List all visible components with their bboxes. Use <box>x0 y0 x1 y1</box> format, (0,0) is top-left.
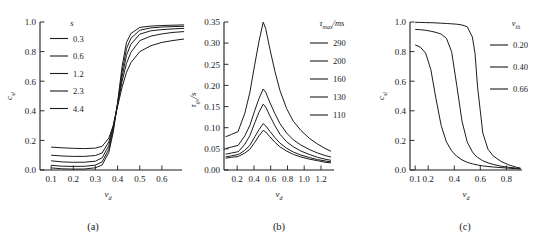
y-tick-labels: 0.0 0.2 0.4 0.6 0.8 1.0 <box>25 17 37 175</box>
y-axis-label: csi <box>376 92 388 100</box>
curve-s-2.3 <box>51 26 184 166</box>
y-tick-labels: 0.0 0.2 0.4 0.6 0.8 1.0 <box>395 17 407 175</box>
curve-taumax-110 <box>226 130 331 163</box>
legend-title: vth <box>512 18 520 30</box>
x-tick-label: 0.8 <box>282 174 294 184</box>
legend-title-sub: max <box>323 24 333 30</box>
panel-c-curves <box>415 22 520 169</box>
curve-vth-0.20 <box>415 45 520 169</box>
y-tick-label: 1.0 <box>25 17 37 27</box>
legend-label: 2.3 <box>73 86 84 96</box>
panel-c-legend: vth 0.20 0.40 0.66 <box>490 18 528 94</box>
legend-entry: 130 <box>310 92 346 102</box>
curve-s-4.4 <box>51 25 184 169</box>
legend-entry: 0.66 <box>490 84 528 94</box>
x-tick-label: 0.6 <box>475 174 487 184</box>
panel-a-caption: (a) <box>0 221 186 232</box>
y-tick-label: 0.2 <box>25 136 36 146</box>
panel-c: 0.0 0.2 0.4 0.6 0.8 1.0 0.1 0.2 0.4 0.6 … <box>372 0 558 236</box>
x-axis-label: vd <box>105 189 113 201</box>
x-tick-label: 0.3 <box>90 174 102 184</box>
x-tick-label: 0.2 <box>68 174 79 184</box>
legend-title: s <box>70 18 74 28</box>
y-tick-label: 0.05 <box>204 144 220 154</box>
x-tick-label: 0.6 <box>156 174 168 184</box>
panel-b-legend: τmax/ms 290 200 160 130 <box>310 18 346 120</box>
legend-label: 0.6 <box>73 51 84 61</box>
y-tick-label: 0.8 <box>395 47 407 57</box>
panel-b: 0.00 0.05 0.10 0.15 0.20 0.25 0.30 0.35 … <box>186 0 372 236</box>
panel-a-curves <box>51 25 184 169</box>
legend-entry: 110 <box>310 110 345 120</box>
y-tick-label: 0.15 <box>204 102 220 112</box>
legend-label: 0.20 <box>513 40 528 50</box>
x-tick-label: 0.5 <box>134 174 146 184</box>
y-ticks <box>40 22 45 170</box>
legend-title: τmax/ms <box>320 18 346 30</box>
y-axis-label: τgv/s <box>188 92 200 107</box>
panel-b-plot: 0.00 0.05 0.10 0.15 0.20 0.25 0.30 0.35 … <box>186 0 372 212</box>
legend-entry: 290 <box>310 38 346 48</box>
legend-label: 0.66 <box>513 84 528 94</box>
y-axis-label: csi <box>4 92 16 100</box>
svg-text:csi: csi <box>4 92 16 100</box>
y-axis-label-tail: /s <box>188 92 198 100</box>
legend-entry: 2.3 <box>50 86 84 96</box>
legend-label: 200 <box>333 56 346 66</box>
legend-title-tail: /ms <box>332 18 346 28</box>
y-tick-label: 0.8 <box>25 47 37 57</box>
y-tick-label: 0.0 <box>395 165 407 175</box>
curve-s-1.2 <box>51 28 184 162</box>
panel-c-axes <box>410 22 522 170</box>
x-tick-label: 0.4 <box>112 174 124 184</box>
legend-label: 110 <box>333 110 345 120</box>
x-tick-label: 0.8 <box>501 174 513 184</box>
legend-entry: 0.6 <box>50 51 84 61</box>
y-tick-label: 0.4 <box>25 106 37 116</box>
svg-text:csi: csi <box>376 92 388 100</box>
y-axis-label-sub: si <box>382 92 388 96</box>
x-axis-label: vd <box>463 189 471 201</box>
panel-b-axes <box>224 22 334 170</box>
x-axis-label-sub: d <box>467 195 471 201</box>
y-ticks <box>410 22 415 170</box>
curve-vth-0.66 <box>415 22 520 168</box>
x-axis-label-sub: d <box>109 195 113 201</box>
legend-entry: 160 <box>310 74 346 84</box>
x-axis-label: vd <box>276 189 284 201</box>
legend-label: 4.4 <box>73 104 84 114</box>
panel-a-legend: s 0.3 0.6 1.2 2.3 <box>50 18 84 114</box>
legend-entry: 0.20 <box>490 40 528 50</box>
x-tick-labels: 0.2 0.4 0.6 0.8 1.0 1.2 <box>232 174 327 184</box>
curve-vth-0.40 <box>415 29 520 168</box>
curve-s-0.3 <box>51 39 184 149</box>
y-tick-label: 0.20 <box>204 81 220 91</box>
y-tick-label: 1.0 <box>395 17 407 27</box>
x-tick-label: 0.4 <box>248 174 260 184</box>
y-tick-label: 0.35 <box>204 17 220 27</box>
panel-b-caption: (b) <box>186 221 372 232</box>
x-tick-label: 0.4 <box>449 174 461 184</box>
figure-three-panel: 0.0 0.2 0.4 0.6 0.8 1.0 0.1 0.2 0.3 0.4 … <box>0 0 559 236</box>
y-tick-label: 0.6 <box>25 77 37 87</box>
y-tick-label: 0.30 <box>204 38 220 48</box>
x-tick-label: 0.1 <box>45 174 56 184</box>
panel-c-plot: 0.0 0.2 0.4 0.6 0.8 1.0 0.1 0.2 0.4 0.6 … <box>372 0 559 212</box>
panel-c-caption: (c) <box>372 221 558 232</box>
legend-label: 130 <box>333 92 346 102</box>
y-tick-label: 0.00 <box>204 165 220 175</box>
legend-entry: 4.4 <box>50 104 84 114</box>
legend-entry: 0.40 <box>490 62 528 72</box>
legend-label: 290 <box>333 38 346 48</box>
x-ticks <box>415 166 506 171</box>
svg-text:τgv/s: τgv/s <box>188 92 200 107</box>
y-tick-label: 0.0 <box>25 165 37 175</box>
legend-title-sub: th <box>516 24 521 30</box>
x-axis-label-sub: d <box>280 195 284 201</box>
legend-entry: 1.2 <box>50 69 84 79</box>
x-tick-label: 1.0 <box>299 174 311 184</box>
curve-s-0.6 <box>51 32 184 157</box>
y-tick-label: 0.2 <box>395 136 406 146</box>
legend-label: 160 <box>333 74 346 84</box>
x-tick-label: 0.2 <box>232 174 243 184</box>
